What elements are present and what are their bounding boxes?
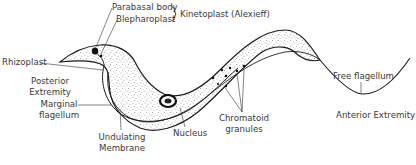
label-undulating-line1: Undulating: [92, 132, 152, 143]
leader-lines: [40, 8, 361, 130]
nucleolus: [165, 99, 172, 104]
label-marginal-flagellum: Marginal flagellum: [34, 99, 84, 121]
label-rhizoplast: Rhizoplast: [2, 57, 47, 68]
parabasal-body: [92, 47, 98, 54]
label-chromatoid-line1: Chromatoid: [214, 113, 274, 124]
label-undulating-membrane: Undulating Membrane: [92, 132, 152, 154]
label-undulating-line2: Membrane: [92, 143, 152, 154]
label-parabasal-body: Parabasal body: [112, 2, 178, 13]
blepharoplast: [100, 55, 103, 58]
label-chromatoid-line2: granules: [214, 124, 274, 135]
label-marginal-line1: Marginal: [34, 99, 84, 110]
label-blepharoplast: Blepharoplast: [116, 14, 175, 25]
label-posterior-extremity: Posterior Extremity: [20, 76, 80, 98]
cell-body: [60, 30, 320, 130]
label-marginal-line2: flagellum: [34, 110, 84, 121]
label-kinetoplast: Kinetoplast (Alexieff): [180, 9, 270, 20]
label-free-flagellum: Free flagellum: [333, 71, 394, 82]
label-posterior-line1: Posterior: [20, 76, 80, 87]
label-chromatoid-granules: Chromatoid granules: [214, 113, 274, 135]
label-anterior-extremity: Anterior Extremity: [336, 110, 415, 121]
label-nucleus: Nucleus: [173, 128, 207, 139]
label-posterior-line2: Extremity: [20, 87, 80, 98]
trypanosome-diagram: Parabasal body Blepharoplast Kinetoplast…: [0, 0, 416, 165]
